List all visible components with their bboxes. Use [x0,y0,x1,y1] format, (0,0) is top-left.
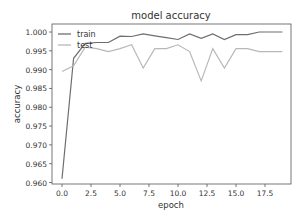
x-tick-label: 15.0 [228,189,245,198]
y-tick-label: 0.975 [26,122,48,131]
y-tick-label: 0.995 [26,47,48,56]
y-axis: 0.9600.9650.9700.9750.9800.9850.9900.995… [26,28,52,188]
y-tick-label: 0.990 [26,66,48,75]
chart-title: model accuracy [131,10,211,21]
x-tick-label: 5.0 [114,189,126,198]
x-axis-label: epoch [158,200,184,210]
y-axis-label: accuracy [12,85,22,123]
y-tick-label: 1.000 [26,28,48,37]
series-line-test [62,45,282,81]
x-tick-label: 12.5 [199,189,216,198]
series-lines [62,32,282,179]
y-tick-label: 0.960 [26,179,48,188]
legend: train test [58,30,96,50]
y-tick-label: 0.965 [26,160,48,169]
y-tick-label: 0.985 [26,84,48,93]
legend-label-test: test [77,41,92,50]
legend-label-train: train [77,30,96,39]
y-tick-label: 0.970 [26,141,48,150]
x-tick-label: 10.0 [170,189,187,198]
y-tick-label: 0.980 [26,103,48,112]
x-tick-label: 17.5 [257,189,274,198]
x-axis: 0.02.55.07.510.012.515.017.5 [56,184,274,198]
x-tick-label: 2.5 [85,189,97,198]
series-line-train [62,32,282,179]
x-tick-label: 7.5 [143,189,155,198]
x-tick-label: 0.0 [56,189,68,198]
accuracy-chart: model accuracy 0.9600.9650.9700.9750.980… [0,0,307,221]
